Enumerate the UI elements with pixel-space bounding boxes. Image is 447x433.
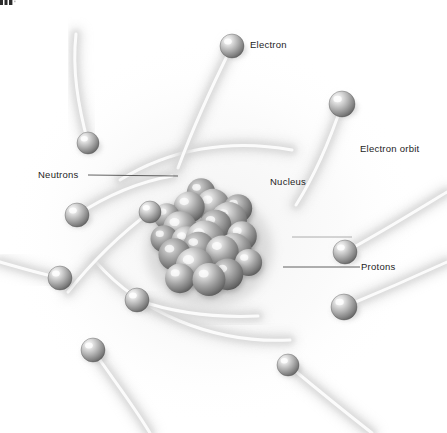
atom-illustration-canvas (0, 0, 447, 433)
label-electron: Electron (250, 40, 287, 50)
label-electron-orbit: Electron orbit (360, 144, 419, 154)
label-protons: Protons (361, 262, 396, 272)
label-nucleus: Nucleus (270, 177, 306, 187)
electron-sphere-icon (220, 34, 247, 59)
label-neutrons: Neutrons (38, 170, 79, 180)
atom-diagram-figure: Electron Electron orbit Neutrons Nucleus… (0, 0, 447, 433)
page-edge-artifact-icon (0, 0, 22, 6)
